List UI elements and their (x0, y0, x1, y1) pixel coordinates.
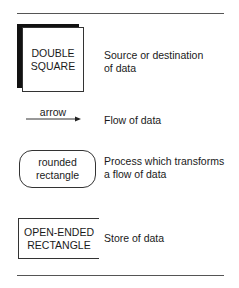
symbol-label-line: DOUBLE (31, 47, 75, 60)
bottom-divider (17, 275, 224, 276)
top-divider (17, 13, 224, 14)
symbol-label-line: rectangle (36, 169, 79, 182)
open-ended-rectangle-description: Store of data (104, 232, 164, 245)
description-line: Store of data (104, 232, 164, 245)
rounded-rectangle-description: Process which transforms a flow of data (104, 155, 224, 181)
double-square-description: Source or destination of data (104, 49, 203, 75)
double-square-symbol: DOUBLE SQUARE (22, 27, 84, 92)
description-line: Flow of data (104, 114, 161, 127)
symbol-label-line: OPEN-ENDED (24, 226, 94, 239)
arrow-description: Flow of data (104, 114, 161, 127)
description-line: a flow of data (104, 168, 224, 181)
description-line: Source or destination (104, 49, 203, 62)
arrow-icon (24, 114, 84, 124)
open-ended-rectangle-symbol: OPEN-ENDED RECTANGLE (18, 218, 99, 259)
symbol-label-line: rounded (36, 156, 79, 169)
rounded-rectangle-symbol: rounded rectangle (19, 150, 96, 188)
symbol-label-line: SQUARE (31, 60, 75, 73)
symbol-label-line: RECTANGLE (24, 239, 94, 252)
description-line: Process which transforms (104, 155, 224, 168)
description-line: of data (104, 62, 203, 75)
